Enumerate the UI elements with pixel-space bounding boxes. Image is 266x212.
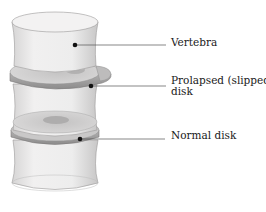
normal-marker-dot	[78, 137, 83, 142]
spine-diagram: Vertebra Prolapsed (slipped) disk Normal…	[0, 0, 266, 212]
lower-vertebra	[12, 140, 98, 191]
prolapsed-marker-dot	[89, 84, 94, 89]
prolapsed-disk-pointer	[89, 84, 166, 89]
normal-disk-label: Normal disk	[171, 130, 236, 141]
middle-vertebra	[13, 84, 97, 136]
vertebra-label: Vertebra	[171, 37, 217, 48]
prolapsed-disk-label-line2: disk	[171, 86, 266, 97]
vertebral-column-illustration	[0, 0, 266, 212]
upper-vertebra	[12, 12, 98, 72]
vertebra-marker-dot	[73, 43, 78, 48]
prolapsed-disk-label: Prolapsed (slipped) disk	[171, 75, 266, 97]
